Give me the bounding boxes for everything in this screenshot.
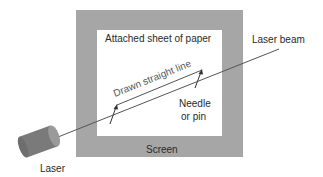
laser-device-icon (16, 124, 63, 159)
pin-label: or pin (181, 111, 206, 122)
laser-experiment-diagram: Attached sheet of paper Laser beam Drawn… (0, 0, 323, 177)
needle-label: Needle (179, 98, 211, 109)
paper-label: Attached sheet of paper (105, 33, 212, 44)
laser-label: Laser (40, 163, 66, 174)
screen-label: Screen (146, 144, 178, 155)
laser-beam-label: Laser beam (252, 34, 305, 45)
